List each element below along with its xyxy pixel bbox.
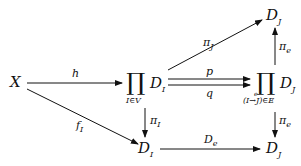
label-D-e: De <box>204 134 218 148</box>
subscript: e <box>286 120 291 129</box>
subscript: I <box>162 85 165 94</box>
term: D <box>150 74 162 92</box>
prod-index-I: I∈V <box>126 97 141 105</box>
term: D <box>266 139 278 157</box>
label-pi-J: πJ <box>203 37 213 51</box>
subscript: J <box>278 150 281 159</box>
arrow-pi-J <box>168 20 262 70</box>
label-pi-e-down: πe <box>279 115 291 129</box>
node-D-I-bottom: DI <box>138 141 153 159</box>
subscript: J <box>278 17 281 26</box>
label-p: p <box>206 66 213 77</box>
arrow-f-I <box>27 89 138 144</box>
product-symbol-J: ∏ <box>256 70 275 94</box>
subscript: I <box>150 150 153 159</box>
term: D <box>266 6 278 24</box>
subscript: e <box>286 46 291 55</box>
subscript: I <box>157 120 160 129</box>
term: D <box>280 74 292 92</box>
subscript: J <box>210 42 213 51</box>
prod-index-J: (I→J)∈E <box>243 97 274 105</box>
node-X: X <box>10 75 21 90</box>
subscript: J <box>292 85 295 94</box>
label-h: h <box>72 68 79 79</box>
node-D-J-bottom: DJ <box>266 141 281 159</box>
term: D <box>138 139 150 157</box>
main: D <box>204 133 213 146</box>
subscript: I <box>80 125 83 134</box>
label-pi-I: πI <box>150 115 160 129</box>
node-D-J-top: DJ <box>266 8 281 26</box>
label-pi-e-up: πe <box>279 41 291 55</box>
prod-index-J-edge-label: e <box>254 91 258 97</box>
subscript: e <box>213 139 218 148</box>
node-prod-D-I: DI <box>150 76 165 94</box>
product-symbol-I: ∏ <box>126 70 145 94</box>
label-q: q <box>206 88 213 99</box>
label-f-I: fI <box>76 120 83 134</box>
node-prod-D-J: DJ <box>280 76 295 94</box>
